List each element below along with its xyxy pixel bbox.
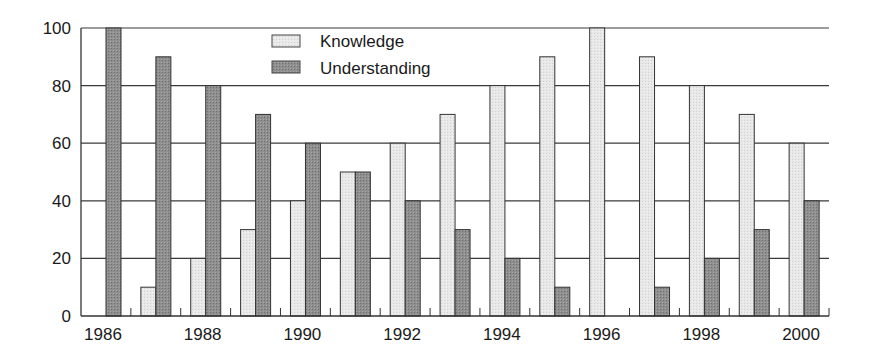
bar-knowledge-1991: [340, 172, 355, 316]
bar-understanding-1986: [106, 28, 121, 316]
x-tick-label: 1992: [383, 325, 421, 344]
bar-understanding-1987: [156, 57, 171, 316]
bar-knowledge-1995: [540, 57, 555, 316]
legend-swatch-knowledge: [272, 35, 300, 47]
y-tick-label: 80: [52, 77, 71, 96]
x-tick-label: 2000: [782, 325, 820, 344]
bar-knowledge-1987: [141, 287, 156, 316]
bar-knowledge-1989: [241, 230, 256, 316]
legend: Knowledge Understanding: [272, 32, 431, 78]
bar-knowledge-1999: [739, 114, 754, 316]
bar-knowledge-2000: [789, 143, 804, 316]
y-tick-label: 60: [52, 134, 71, 153]
legend-swatch-understanding: [272, 61, 300, 73]
bar-knowledge-1997: [640, 57, 655, 316]
x-tick-label: 1986: [84, 325, 122, 344]
bar-understanding-1989: [256, 114, 271, 316]
bar-understanding-1988: [206, 86, 221, 316]
x-tick-label: 1996: [583, 325, 621, 344]
legend-label-understanding: Understanding: [320, 59, 431, 78]
bar-understanding-1999: [754, 230, 769, 316]
bar-understanding-1994: [505, 258, 520, 316]
y-tick-label: 40: [52, 192, 71, 211]
x-tick-label: 1998: [682, 325, 720, 344]
x-tick-label: 1994: [483, 325, 521, 344]
bar-understanding-1991: [355, 172, 370, 316]
y-axis-ticks: 020406080100: [43, 19, 71, 326]
bar-understanding-1993: [455, 230, 470, 316]
x-tick-label: 1988: [184, 325, 222, 344]
x-tick-label: 1990: [283, 325, 321, 344]
bar-understanding-1997: [655, 287, 670, 316]
bar-understanding-1990: [305, 143, 320, 316]
y-tick-label: 0: [62, 307, 71, 326]
bar-knowledge-1994: [490, 86, 505, 316]
legend-label-knowledge: Knowledge: [320, 32, 404, 51]
bar-understanding-1995: [555, 287, 570, 316]
bar-understanding-1998: [704, 258, 719, 316]
y-tick-label: 20: [52, 249, 71, 268]
bar-knowledge-1988: [191, 258, 206, 316]
bar-knowledge-1992: [390, 143, 405, 316]
bar-knowledge-1993: [440, 114, 455, 316]
bar-chart: 020406080100 198619881990199219941996199…: [0, 0, 872, 362]
bar-understanding-2000: [804, 201, 819, 316]
y-tick-label: 100: [43, 19, 71, 38]
bars: [106, 28, 819, 316]
x-axis-ticks: 19861988199019921994199619982000: [84, 325, 820, 344]
bar-understanding-1992: [405, 201, 420, 316]
bar-knowledge-1990: [290, 201, 305, 316]
bar-knowledge-1996: [590, 28, 605, 316]
bar-knowledge-1998: [689, 86, 704, 316]
